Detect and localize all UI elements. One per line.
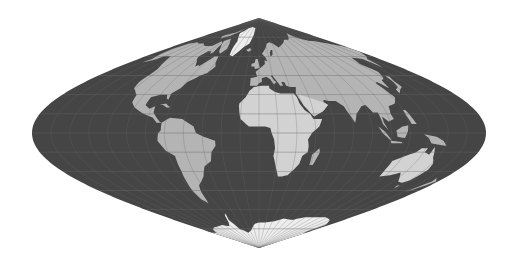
map-container	[0, 0, 516, 267]
graticule	[32, 18, 486, 248]
world-map[interactable]	[0, 0, 516, 267]
